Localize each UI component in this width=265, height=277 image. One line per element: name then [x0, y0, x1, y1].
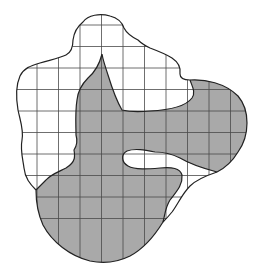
grid-area-diagram — [0, 0, 265, 277]
shaded-region — [36, 54, 247, 262]
